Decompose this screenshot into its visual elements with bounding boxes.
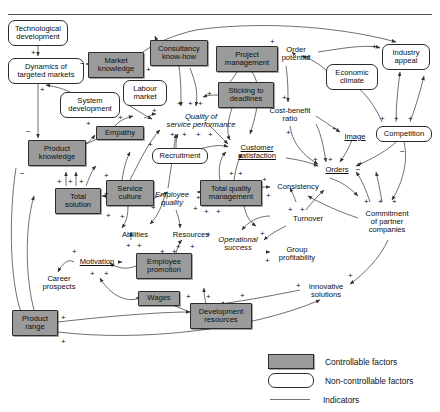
polarity-sign: + (86, 120, 91, 128)
node-dyn-markets[interactable]: Dynamics of targeted markets (8, 58, 84, 84)
polarity-sign: + (126, 242, 131, 250)
polarity-sign: + (104, 270, 109, 278)
polarity-sign: + (190, 243, 195, 251)
polarity-sign: − (400, 148, 405, 156)
legend-row-non-controllable: Non-controllable factors (268, 371, 436, 390)
node-order-potential[interactable]: Order potential (274, 43, 318, 65)
polarity-sign: + (172, 248, 177, 256)
node-operational[interactable]: Operational success (212, 233, 264, 255)
node-project-mgmt[interactable]: Project management (216, 46, 278, 72)
polarity-sign: + (270, 38, 275, 46)
node-econ-climate[interactable]: Economic climate (326, 64, 378, 90)
node-commitment[interactable]: Commitment of partner companies (358, 206, 416, 238)
polarity-sign: + (332, 125, 337, 133)
polarity-sign: + (380, 115, 385, 123)
polarity-sign: + (300, 206, 305, 214)
polarity-sign: + (328, 156, 333, 164)
polarity-sign: + (240, 292, 245, 300)
polarity-sign: + (61, 314, 66, 322)
node-consistency[interactable]: Consistency (272, 181, 324, 193)
node-customer-sat[interactable]: Customer satisfaction (228, 141, 286, 163)
legend-row-indicators: Indicators (268, 390, 436, 409)
node-product-range[interactable]: Product range (12, 310, 58, 336)
polarity-sign: + (204, 208, 209, 216)
node-total-solution[interactable]: Total solution (55, 188, 101, 214)
node-employee-promo[interactable]: Employee promotion (136, 253, 192, 279)
polarity-sign: + (229, 170, 234, 178)
polarity-sign: + (151, 204, 156, 212)
polarity-sign: + (198, 100, 203, 108)
polarity-sign: + (148, 141, 153, 149)
node-consultancy[interactable]: Consultancy know-how (150, 40, 208, 66)
node-orders[interactable]: Orders (320, 164, 354, 176)
polarity-sign: + (137, 242, 142, 250)
node-cost-benefit[interactable]: Cost-benefit ratio (264, 104, 316, 126)
polarity-sign: + (61, 338, 66, 346)
polarity-sign: + (394, 115, 399, 123)
polarity-sign: + (104, 172, 109, 180)
polarity-sign: + (306, 53, 311, 61)
node-tqm[interactable]: Total quality management (200, 180, 262, 206)
node-industry-appeal[interactable]: Industry appeal (382, 44, 430, 70)
node-labour-market[interactable]: Labour market (123, 80, 167, 106)
node-turnover[interactable]: Turnover (288, 213, 328, 225)
node-wages[interactable]: Wages (138, 291, 180, 306)
polarity-sign: + (266, 192, 271, 200)
node-empathy[interactable]: Empathy (96, 126, 144, 140)
polarity-sign: + (207, 90, 212, 98)
polarity-sign: + (392, 198, 397, 206)
node-career-prosp[interactable]: Career prospects (36, 272, 82, 294)
legend: Controllable factors Non-controllable fa… (268, 352, 436, 409)
polarity-sign: + (170, 131, 175, 139)
polarity-sign: + (372, 43, 377, 51)
polarity-sign: + (120, 213, 125, 221)
non-controllable-swatch (268, 373, 314, 388)
polarity-sign: + (106, 212, 111, 220)
polarity-sign: + (260, 230, 265, 238)
node-product-know[interactable]: Product knowledge (28, 140, 86, 166)
node-group-profit[interactable]: Group profitability (272, 243, 322, 265)
node-image[interactable]: Image (340, 131, 370, 143)
node-market-knowledge[interactable]: Market knowledge (88, 52, 144, 78)
polarity-sign: + (79, 178, 84, 186)
polarity-sign: − (26, 128, 31, 136)
diagram-page: Technological developmentDynamics of tar… (0, 0, 440, 412)
polarity-sign: + (57, 178, 62, 186)
polarity-sign: + (378, 198, 383, 206)
polarity-sign: + (206, 293, 211, 301)
node-system-dev[interactable]: System development (60, 92, 120, 118)
polarity-sign: + (288, 206, 293, 214)
polarity-sign: + (90, 270, 95, 278)
polarity-sign: + (364, 198, 369, 206)
polarity-sign: − (20, 170, 25, 178)
polarity-sign: + (177, 100, 182, 108)
node-motivation[interactable]: Motivation (74, 256, 120, 268)
polarity-sign: + (313, 156, 318, 164)
node-service-culture[interactable]: Service culture (106, 180, 154, 206)
polarity-sign: + (160, 248, 165, 256)
node-quality-serv[interactable]: Quality of service performance (157, 110, 245, 132)
polarity-sign: − (80, 60, 85, 68)
polarity-sign: + (186, 293, 191, 301)
node-abilities[interactable]: Abilities (116, 229, 154, 241)
polarity-sign: + (348, 272, 353, 280)
polarity-sign: + (265, 257, 270, 265)
polarity-sign: + (286, 129, 291, 137)
node-innovative[interactable]: Innovative solutions (302, 280, 350, 302)
polarity-sign: + (238, 170, 243, 178)
polarity-sign: + (152, 107, 157, 115)
polarity-sign: + (31, 49, 36, 57)
polarity-sign: + (408, 115, 413, 123)
polarity-sign: + (188, 100, 193, 108)
polarity-sign: + (72, 248, 77, 256)
polarity-sign: + (196, 131, 201, 139)
polarity-sign: + (193, 205, 198, 213)
polarity-sign: + (68, 178, 73, 186)
node-competition[interactable]: Competition (376, 126, 432, 142)
controllable-swatch (268, 354, 314, 369)
node-dev-resources[interactable]: Development resources (190, 303, 252, 329)
polarity-sign: + (282, 94, 287, 102)
node-recruitment[interactable]: Recruitment (152, 148, 208, 164)
node-tech-dev[interactable]: Technological development (8, 20, 68, 46)
polarity-sign: + (296, 282, 301, 290)
